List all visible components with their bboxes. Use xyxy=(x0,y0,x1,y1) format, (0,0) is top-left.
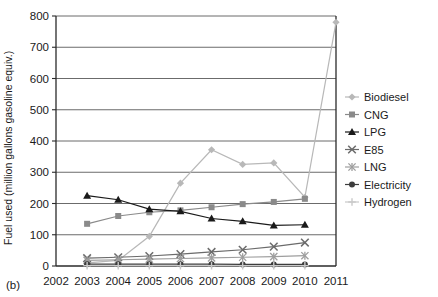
data-point xyxy=(301,262,309,270)
legend-label: Hydrogen xyxy=(364,196,412,208)
legend-marker-plus-icon xyxy=(348,198,356,206)
series-line xyxy=(87,22,336,263)
legend-label: Biodiesel xyxy=(364,91,409,103)
line-chart: 0100200300400500600700800 20022003200420… xyxy=(0,0,438,297)
x-tick-label: 2011 xyxy=(324,275,349,287)
y-tick-label: 0 xyxy=(43,260,49,272)
legend-label: E85 xyxy=(364,144,384,156)
legend-item-hydrogen[interactable]: Hydrogen xyxy=(345,196,412,208)
legend-label: CNG xyxy=(364,109,388,121)
x-tick-label: 2006 xyxy=(168,275,194,287)
data-point xyxy=(239,262,247,270)
legend-item-e85[interactable]: E85 xyxy=(345,144,384,156)
legend-marker-diamond-icon xyxy=(348,93,355,100)
legend-marker-circle-icon xyxy=(349,182,355,188)
y-tick-label: 700 xyxy=(30,41,49,53)
panel-label: (b) xyxy=(6,279,20,291)
data-point xyxy=(239,161,246,168)
x-tick-label: 2002 xyxy=(43,275,69,287)
legend-item-electricity[interactable]: Electricity xyxy=(345,179,412,191)
x-tick-label: 2007 xyxy=(199,275,225,287)
data-point xyxy=(332,19,339,26)
x-tick-label: 2010 xyxy=(292,275,318,287)
series-lpg xyxy=(83,192,309,229)
x-tick-label: 2008 xyxy=(230,275,256,287)
y-tick-label: 400 xyxy=(30,135,49,147)
legend-item-lng[interactable]: LNG xyxy=(345,161,387,173)
gridlines xyxy=(56,16,336,235)
x-tick-label: 2004 xyxy=(105,275,131,287)
legend-label: LPG xyxy=(364,126,386,138)
y-tick-label: 600 xyxy=(30,73,49,85)
series-biodiesel xyxy=(84,19,340,267)
y-tick-labels: 0100200300400500600700800 xyxy=(30,10,49,272)
data-point xyxy=(83,192,91,199)
chart-legend: BiodieselCNGLPGE85LNGElectricityHydrogen xyxy=(345,91,412,208)
x-tick-label: 2003 xyxy=(74,275,100,287)
figure-panel-b: 0100200300400500600700800 20022003200420… xyxy=(0,0,438,297)
data-point xyxy=(209,204,215,210)
data-point xyxy=(115,213,121,219)
y-axis-title: Fuel used (million gallons gasoline equi… xyxy=(2,51,14,245)
data-series-group xyxy=(83,19,339,270)
x-tick-labels: 2002200320042005200620072008200920102011 xyxy=(43,275,348,287)
legend-item-lpg[interactable]: LPG xyxy=(345,126,386,138)
x-tick-label: 2005 xyxy=(137,275,163,287)
data-point xyxy=(84,221,90,227)
y-tick-label: 500 xyxy=(30,104,49,116)
data-point xyxy=(302,196,308,202)
y-tick-label: 200 xyxy=(30,198,49,210)
legend-item-biodiesel[interactable]: Biodiesel xyxy=(345,91,409,103)
legend-label: Electricity xyxy=(364,179,412,191)
legend-label: LNG xyxy=(364,161,387,173)
y-tick-label: 100 xyxy=(30,229,49,241)
legend-marker-square-icon xyxy=(349,112,355,118)
x-tick-label: 2009 xyxy=(261,275,287,287)
y-tick-label: 800 xyxy=(30,10,49,22)
data-point xyxy=(271,199,277,205)
data-point xyxy=(240,201,246,207)
y-tick-label: 300 xyxy=(30,166,49,178)
legend-item-cng[interactable]: CNG xyxy=(345,109,388,121)
data-point xyxy=(270,262,278,270)
